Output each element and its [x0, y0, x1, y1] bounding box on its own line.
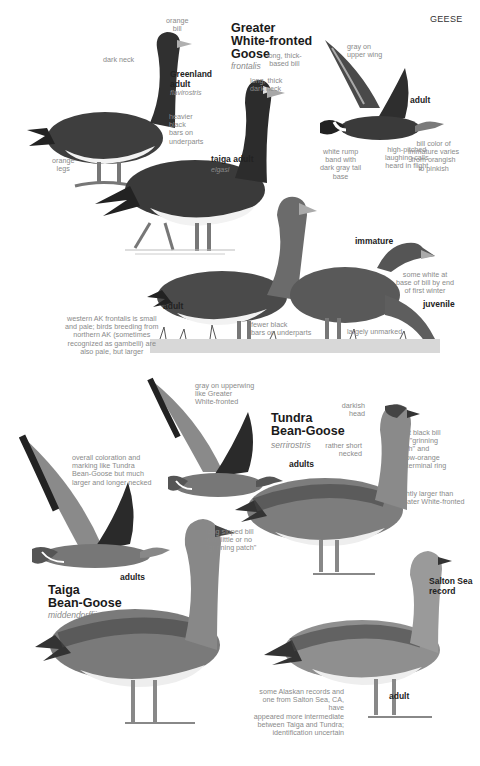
age-juvenile: juvenile	[423, 300, 455, 310]
note-bill-color-immature: bill color of immature varies from orang…	[408, 140, 459, 173]
note-fewer-black-bars: fewer black bars on underparts	[251, 321, 311, 337]
note-long-thick-dark-neck: long, thick dark neck	[250, 77, 282, 93]
note-slightly-larger: slightly larger than Greater White-front…	[395, 490, 465, 506]
note-overall-coloration: overall coloration and marking like Tund…	[72, 454, 152, 487]
age-salton-sea-record: Salton Sea record	[429, 577, 472, 596]
note-orange-legs: orange legs	[52, 157, 74, 173]
note-alaskan-records: some Alaskan records and one from Salton…	[246, 688, 344, 737]
age-immature: immature	[355, 237, 393, 247]
note-gray-on-upper-wing: gray on upper wing	[347, 43, 382, 59]
note-short-black-bill: short black bill with "grinning patch" a…	[395, 429, 446, 470]
section-header: GEESE	[430, 14, 463, 24]
note-white-rump-band: white rump band with dark gray tail base	[320, 148, 361, 181]
subspecies-elgasi: elgasi	[211, 166, 229, 174]
species-subspecies-frontalis: frontalis	[231, 61, 261, 71]
note-darkish-head: darkish head	[330, 402, 365, 418]
note-dark-neck: dark neck	[103, 56, 134, 64]
age-taiga-adult: taiga adult	[211, 155, 254, 165]
note-long-sloped-bill: long sloped bill with little or no "grin…	[206, 528, 256, 553]
age-adult-frontalis: adult	[163, 302, 183, 312]
note-western-ak-frontalis: western AK frontalis is small and pale; …	[65, 315, 159, 356]
goose-illustration-taiga-adult-standing	[35, 515, 235, 730]
goose-illustration-adult-flight	[320, 38, 445, 148]
note-largely-unmarked: largely unmarked	[347, 328, 402, 336]
note-rather-short-necked: rather short necked	[312, 442, 362, 458]
note-orange-bill: orange bill	[166, 17, 188, 33]
age-adult-salton: adult	[389, 692, 409, 702]
note-long-thick-based-bill: long, thick- based bill	[267, 52, 302, 68]
age-adult-flight: adult	[410, 96, 430, 106]
field-guide-page: GEESE Greater White-fronted Goose fronta…	[0, 0, 480, 766]
